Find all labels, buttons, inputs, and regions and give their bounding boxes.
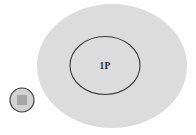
inner-ellipse-label: 1P (100, 61, 111, 71)
external-node-square-icon (17, 95, 27, 105)
set-diagram: 1P (0, 0, 196, 135)
external-node[interactable] (10, 88, 34, 112)
outer-ellipse-region[interactable] (37, 4, 187, 128)
diagram-canvas: 1P (0, 0, 196, 135)
